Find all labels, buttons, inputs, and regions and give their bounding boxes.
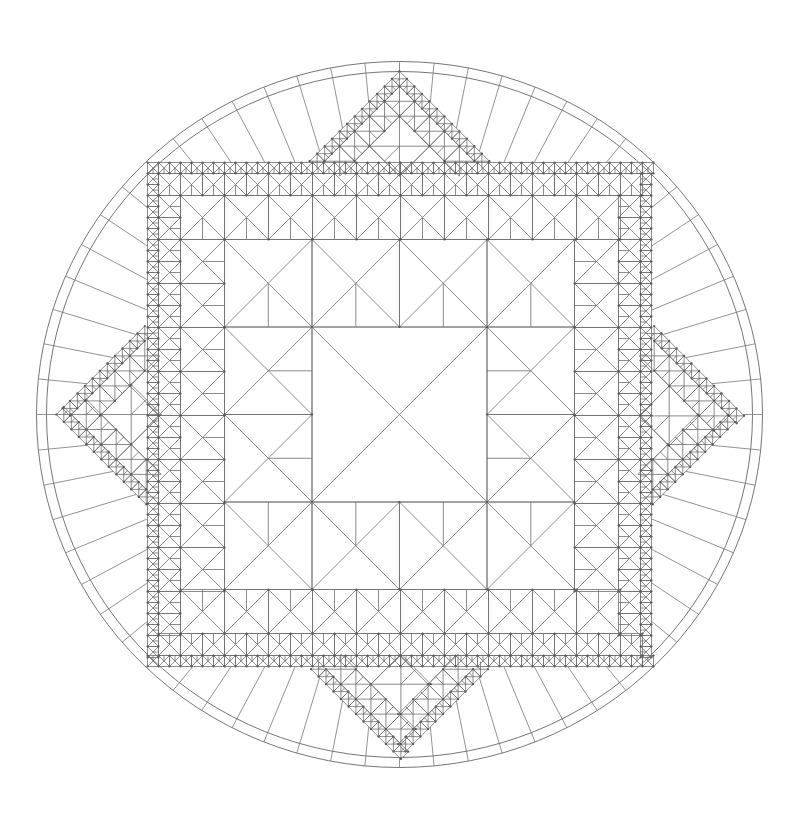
grid-node — [639, 205, 641, 207]
grid-node — [146, 546, 148, 548]
grid-node — [641, 194, 643, 196]
grid-node — [223, 665, 225, 667]
grid-node — [650, 590, 652, 592]
grid-node — [458, 145, 460, 147]
grid-node — [157, 623, 159, 625]
grid-node — [553, 654, 555, 656]
grid-node — [368, 145, 370, 147]
grid-node — [91, 392, 93, 394]
grid-node — [331, 138, 333, 140]
grid-node — [267, 238, 269, 240]
grid-node — [415, 728, 417, 730]
grid-node — [653, 325, 655, 327]
grid-node — [650, 293, 652, 295]
grid-node — [157, 359, 159, 361]
grid-node — [719, 421, 721, 423]
grid-node — [129, 340, 131, 342]
grid-node — [481, 153, 483, 155]
grid-node — [179, 458, 181, 460]
grid-node — [575, 632, 577, 634]
grid-node — [428, 115, 430, 117]
grid-node — [682, 473, 684, 475]
grid-node — [311, 588, 313, 590]
grid-node — [639, 403, 641, 405]
grid-node — [355, 588, 357, 590]
grid-node — [157, 447, 159, 449]
grid-node — [639, 392, 641, 394]
grid-node — [639, 557, 641, 559]
grid-node — [157, 381, 159, 383]
grid-node — [564, 665, 566, 667]
grid-node — [639, 612, 641, 614]
grid-node — [653, 370, 655, 372]
grid-node — [412, 743, 414, 745]
grid-node — [509, 172, 511, 174]
grid-node — [639, 458, 641, 460]
grid-node — [333, 632, 335, 634]
grid-node — [157, 546, 159, 548]
grid-node — [575, 172, 577, 174]
grid-node — [138, 496, 140, 498]
grid-node — [639, 645, 641, 647]
grid-node — [650, 447, 652, 449]
grid-node — [564, 654, 566, 656]
grid-node — [720, 407, 722, 409]
grid-node — [146, 227, 148, 229]
grid-node — [63, 421, 65, 423]
grid-node — [597, 665, 599, 667]
grid-node — [706, 377, 708, 379]
grid-node — [531, 172, 533, 174]
grid-node — [619, 632, 621, 634]
grid-node — [256, 172, 258, 174]
grid-node — [509, 665, 511, 667]
grid-node — [157, 601, 159, 603]
grid-node — [639, 601, 641, 603]
grid-node — [639, 359, 641, 361]
grid-node — [442, 698, 444, 700]
grid-node — [466, 153, 468, 155]
grid-node — [531, 161, 533, 163]
grid-node — [639, 238, 641, 240]
grid-node — [121, 347, 123, 349]
grid-node — [498, 665, 500, 667]
grid-node — [78, 436, 80, 438]
grid-node — [157, 634, 159, 636]
grid-node — [146, 469, 148, 471]
grid-node — [617, 458, 619, 460]
grid-node — [428, 145, 430, 147]
grid-node — [564, 172, 566, 174]
grid-node — [639, 502, 641, 504]
grid-node — [347, 691, 349, 693]
grid-node — [168, 665, 170, 667]
grid-node — [641, 665, 643, 667]
grid-node — [735, 407, 737, 409]
grid-node — [223, 282, 225, 284]
grid-node — [130, 488, 132, 490]
grid-node — [465, 172, 467, 174]
grid-node — [157, 326, 159, 328]
grid-node — [661, 347, 663, 349]
grid-node — [639, 249, 641, 251]
grid-node — [201, 194, 203, 196]
grid-node — [361, 123, 363, 125]
grid-node — [146, 249, 148, 251]
grid-node — [520, 161, 522, 163]
grid-node — [377, 654, 379, 656]
grid-node — [392, 750, 394, 752]
grid-node — [157, 524, 159, 526]
grid-node — [146, 304, 148, 306]
grid-node — [138, 481, 140, 483]
grid-node — [76, 407, 78, 409]
grid-node — [146, 447, 148, 449]
grid-node — [487, 665, 489, 667]
grid-node — [146, 403, 148, 405]
grid-node — [179, 588, 181, 590]
grid-node — [311, 161, 313, 163]
grid-node — [130, 443, 132, 445]
grid-node — [123, 481, 125, 483]
grid-node — [223, 546, 225, 548]
grid-node — [146, 557, 148, 559]
tiling-diagram — [0, 0, 795, 817]
grid-node — [564, 161, 566, 163]
grid-node — [457, 683, 459, 685]
